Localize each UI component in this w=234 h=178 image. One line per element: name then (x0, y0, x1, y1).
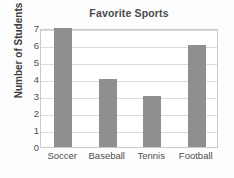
y-tick-label: 2 (28, 109, 39, 119)
x-tick-label-football: Football (173, 150, 219, 161)
bar-baseball[interactable] (99, 79, 117, 147)
y-tick-label: 5 (28, 58, 39, 68)
y-axis-tick-labels: 7 6 5 4 3 2 1 0 (28, 29, 39, 148)
y-tick-label: 1 (28, 126, 39, 136)
chart-title: Favorite Sports (40, 7, 218, 19)
bar-chart-figure: Favorite Sports Number of Students 7 6 5… (0, 0, 234, 178)
y-axis-title: Number of Students (13, 0, 24, 111)
x-axis-tick-labels: Soccer Baseball Tennis Football (40, 150, 218, 166)
y-tick-label: 7 (28, 24, 39, 34)
x-tick-label-tennis: Tennis (128, 150, 174, 161)
y-tick-label: 0 (28, 143, 39, 153)
y-tick-label: 4 (28, 75, 39, 85)
bar-soccer[interactable] (54, 28, 72, 147)
bar-football[interactable] (188, 45, 206, 147)
x-tick-label-soccer: Soccer (39, 150, 85, 161)
plot-area (40, 29, 218, 148)
y-tick-label: 6 (28, 41, 39, 51)
bars-group (41, 30, 217, 147)
y-tick-label: 3 (28, 92, 39, 102)
bar-tennis[interactable] (143, 96, 161, 147)
x-tick-label-baseball: Baseball (84, 150, 130, 161)
